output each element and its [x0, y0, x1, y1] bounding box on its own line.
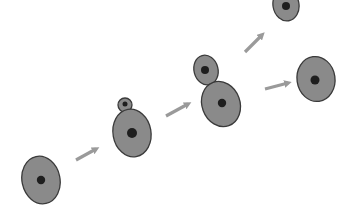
mother-nucleus [127, 128, 137, 138]
cell-stage-3 [191, 52, 247, 132]
nucleus [311, 76, 320, 85]
bud-nucleus [123, 102, 128, 107]
arrow-2-to-3 [166, 104, 188, 116]
bud-nucleus [201, 66, 209, 74]
cell-stage-5 [294, 54, 337, 104]
nucleus [37, 176, 45, 184]
cell-stage-1 [17, 153, 64, 205]
nucleus [282, 2, 290, 10]
cell-stage-4 [270, 0, 301, 23]
cell-stage-2 [109, 98, 155, 160]
arrow-3-to-4 [245, 35, 262, 52]
arrow-1-to-2 [76, 149, 96, 160]
arrow-3-to-5 [265, 83, 288, 89]
mother-nucleus [218, 99, 226, 107]
yeast-budding-diagram [0, 0, 337, 205]
